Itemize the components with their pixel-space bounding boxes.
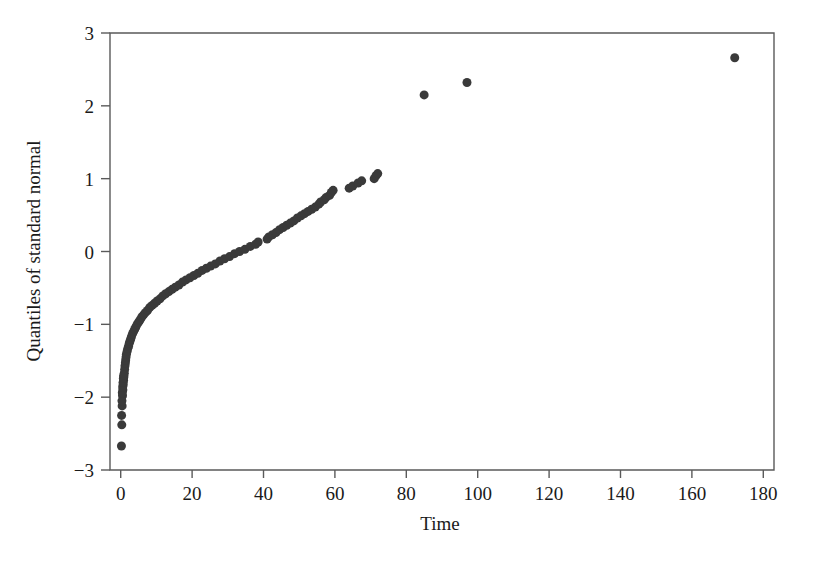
data-point [462,78,471,87]
x-tick-label: 20 [183,483,202,504]
x-tick-label: 160 [678,483,707,504]
data-point [117,411,126,420]
x-axis-ticks: 020406080100120140160180 [116,470,778,504]
qq-plot-figure: 020406080100120140160180 −3−2−10123 Time… [0,0,822,562]
x-tick-label: 40 [254,483,273,504]
x-tick-label: 80 [397,483,416,504]
data-point [373,169,382,178]
x-tick-label: 120 [535,483,564,504]
x-tick-label: 180 [749,483,778,504]
data-point [254,238,263,247]
data-point [730,53,739,62]
data-point [117,396,126,405]
x-tick-label: 0 [116,483,126,504]
x-axis-label: Time [420,513,459,534]
y-tick-label: 0 [85,242,95,263]
y-axis-ticks: −3−2−10123 [74,23,110,481]
scatter-points [117,53,739,450]
y-axis-label: Quantiles of standard normal [23,140,44,361]
data-point [119,371,128,380]
y-tick-label: −3 [74,460,94,481]
plot-frame [110,33,774,470]
y-tick-label: 3 [85,23,95,44]
data-point [420,90,429,99]
data-point [117,441,126,450]
data-point [117,420,126,429]
y-tick-label: 1 [85,169,95,190]
y-tick-label: −2 [74,387,94,408]
x-tick-label: 60 [325,483,344,504]
y-tick-label: 2 [85,96,95,117]
data-point [357,176,366,185]
data-point [329,186,338,195]
y-tick-label: −1 [74,314,94,335]
plot-border [110,33,774,470]
x-tick-label: 140 [606,483,635,504]
x-tick-label: 100 [463,483,492,504]
plot-canvas: 020406080100120140160180 −3−2−10123 Time… [0,0,822,562]
